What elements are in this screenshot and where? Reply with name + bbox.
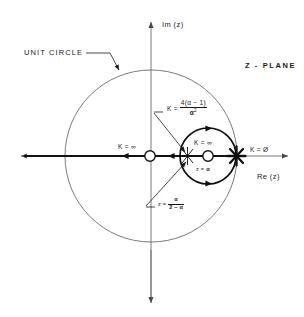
break-point-fraction: α 2 − α bbox=[168, 197, 184, 210]
unit-circle-leader-line bbox=[86, 53, 119, 70]
gain-infinity-origin-label: K = ∞ bbox=[118, 144, 136, 151]
break-point-lhs: z = bbox=[158, 202, 166, 208]
pole-location-value: α bbox=[206, 167, 210, 173]
break-point-location-label: z = α 2 − α bbox=[158, 198, 184, 211]
zero-marker-alpha bbox=[203, 151, 213, 161]
real-axis-label: Re (z) bbox=[257, 173, 280, 181]
break-gain-fraction: 4(α − 1) α2 bbox=[180, 100, 207, 116]
pole-location-label: z = α bbox=[196, 167, 210, 173]
pole-marker-x bbox=[228, 147, 246, 166]
plane-title-label: Z - PLANE bbox=[245, 62, 296, 70]
imaginary-axis-label: Im (z) bbox=[162, 21, 184, 29]
pole-location-lhs: z = bbox=[196, 167, 204, 173]
break-gain-equation-label: K = 4(α − 1) α2 bbox=[167, 101, 207, 117]
gain-infinity-circle-label: K = ∞ bbox=[194, 140, 212, 147]
break-gain-denominator: α2 bbox=[180, 108, 207, 116]
break-gain-denominator-exponent: 2 bbox=[194, 108, 197, 113]
zero-marker-origin bbox=[145, 151, 155, 161]
break-point-denominator: 2 − α bbox=[168, 205, 184, 211]
gain-equation-leader-line bbox=[154, 112, 185, 152]
z-plane-root-locus-figure: Im (z) Re (z) Z - PLANE UNIT CIRCLE K = … bbox=[0, 0, 304, 317]
gain-zero-label: K = Ø bbox=[250, 147, 268, 154]
break-gain-equation-lhs: K = bbox=[167, 106, 178, 113]
unit-circle-label: UNIT CIRCLE bbox=[24, 49, 83, 57]
